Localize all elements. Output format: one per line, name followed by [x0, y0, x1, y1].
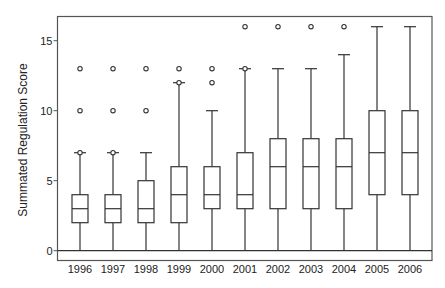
box-1996 — [72, 67, 88, 251]
boxes — [72, 25, 418, 251]
outlier-point — [78, 151, 82, 155]
outlier-point — [177, 81, 181, 85]
y-tick-label: 10 — [40, 105, 52, 117]
box-1999 — [171, 67, 187, 251]
box-2003 — [303, 25, 319, 251]
box-2006 — [402, 27, 418, 251]
outlier-point — [342, 25, 346, 29]
x-tick-label: 1997 — [101, 263, 125, 275]
outlier-point — [111, 151, 115, 155]
box-1997 — [105, 67, 121, 251]
outlier-point — [144, 109, 148, 113]
iqr-box — [237, 153, 253, 209]
outlier-point — [210, 81, 214, 85]
y-axis-title: Summated Regulation Score — [16, 63, 30, 216]
x-tick-label: 2005 — [365, 263, 389, 275]
outlier-point — [78, 67, 82, 71]
box-2004 — [336, 25, 352, 251]
outlier-point — [144, 67, 148, 71]
iqr-box — [270, 139, 286, 209]
box-2001 — [237, 25, 253, 251]
iqr-box — [303, 139, 319, 209]
x-tick-label: 1996 — [68, 263, 92, 275]
outlier-point — [276, 25, 280, 29]
outlier-point — [111, 109, 115, 113]
iqr-box — [336, 139, 352, 209]
box-2005 — [369, 27, 385, 251]
x-tick-label: 2006 — [398, 263, 422, 275]
box-2002 — [270, 25, 286, 251]
box-1998 — [138, 67, 154, 251]
x-tick-label: 2003 — [299, 263, 323, 275]
iqr-box — [138, 181, 154, 223]
iqr-box — [204, 167, 220, 209]
x-axis: 1996199719981999200020012002200320042005… — [68, 263, 422, 275]
boxplot-chart: 051015 199619971998199920002001200220032… — [0, 0, 445, 288]
x-tick-label: 1999 — [167, 263, 191, 275]
y-tick-label: 5 — [46, 175, 52, 187]
y-tick-label: 0 — [46, 245, 52, 257]
x-tick-label: 2001 — [233, 263, 257, 275]
outlier-point — [177, 67, 181, 71]
y-axis: 051015 — [40, 35, 57, 257]
box-2000 — [204, 67, 220, 251]
x-tick-label: 1998 — [134, 263, 158, 275]
outlier-point — [111, 67, 115, 71]
x-tick-label: 2004 — [332, 263, 356, 275]
x-tick-label: 2002 — [266, 263, 290, 275]
outlier-point — [309, 25, 313, 29]
y-tick-label: 15 — [40, 35, 52, 47]
x-tick-label: 2000 — [200, 263, 224, 275]
outlier-point — [210, 67, 214, 71]
outlier-point — [243, 25, 247, 29]
outlier-point — [78, 109, 82, 113]
outlier-point — [243, 67, 247, 71]
